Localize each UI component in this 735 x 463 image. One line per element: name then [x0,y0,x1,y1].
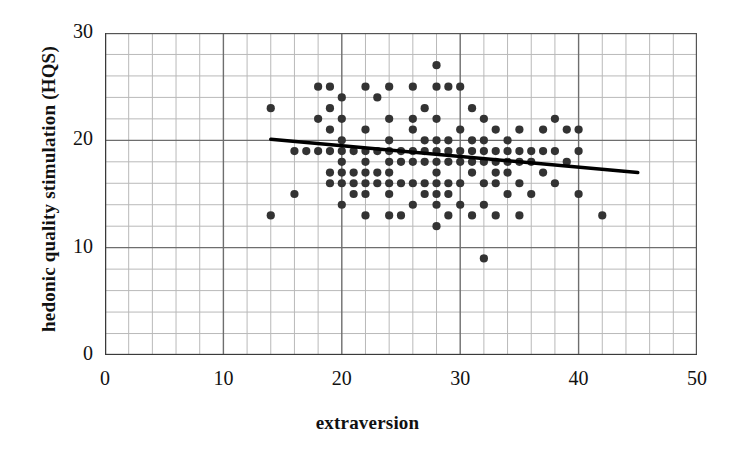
y-axis-title: hedonic quality stimulation (HQS) [38,24,60,354]
data-point [432,61,440,69]
data-point [421,158,429,166]
y-tick-label: 30 [49,20,93,43]
data-point [444,83,452,91]
data-point [338,168,346,176]
data-point [575,190,583,198]
data-point [373,93,381,101]
trendline [271,139,638,172]
data-point [432,179,440,187]
scatter-plot-svg [105,33,697,355]
data-point [338,136,346,144]
data-point [290,190,298,198]
data-point [397,211,405,219]
data-point [551,147,559,155]
data-point [432,168,440,176]
data-point [361,158,369,166]
data-point [551,115,559,123]
data-point [551,179,559,187]
data-point [468,211,476,219]
data-point [421,104,429,112]
data-point [480,201,488,209]
data-point [385,158,393,166]
minor-gridlines [105,33,697,355]
data-point [444,211,452,219]
data-point [361,211,369,219]
data-point [468,168,476,176]
data-point [397,179,405,187]
data-point [539,126,547,134]
data-point [492,168,500,176]
data-point [314,147,322,155]
data-point [432,158,440,166]
data-point [515,126,523,134]
data-point [456,179,464,187]
x-tick-label: 20 [320,367,364,390]
data-point [480,136,488,144]
data-point [503,168,511,176]
data-point [326,126,334,134]
data-point [267,104,275,112]
data-point [468,104,476,112]
x-tick-label: 50 [675,367,719,390]
data-point [456,83,464,91]
data-point [515,179,523,187]
data-point [361,83,369,91]
y-tick-label: 10 [49,235,93,258]
major-gridlines [105,33,697,355]
data-point [421,136,429,144]
data-point [468,136,476,144]
data-point [527,147,535,155]
data-point [444,136,452,144]
data-point [444,179,452,187]
data-point [373,179,381,187]
data-point [563,126,571,134]
y-tick-label: 20 [49,127,93,150]
data-point [409,158,417,166]
data-point [385,168,393,176]
trendline-segment [271,139,638,172]
plot-area [105,33,697,355]
data-point [598,211,606,219]
data-point [385,190,393,198]
data-point [480,147,488,155]
data-point [492,211,500,219]
data-point [361,126,369,134]
data-point [432,190,440,198]
data-point [432,222,440,230]
data-point [515,147,523,155]
data-point [409,83,417,91]
data-point [326,168,334,176]
data-point [456,201,464,209]
data-point [409,115,417,123]
data-point [361,179,369,187]
data-point [456,126,464,134]
data-point [539,147,547,155]
data-point [361,168,369,176]
data-point [373,168,381,176]
data-point [432,115,440,123]
chart-figure: hedonic quality stimulation (HQS) extrav… [0,0,735,463]
data-point [503,136,511,144]
data-point [432,136,440,144]
data-point [539,168,547,176]
data-point [338,115,346,123]
data-point [409,126,417,134]
data-point [468,147,476,155]
data-point [385,115,393,123]
data-point [456,147,464,155]
data-point [314,115,322,123]
x-tick-label: 0 [83,367,127,390]
x-tick-label: 40 [557,367,601,390]
data-point [527,190,535,198]
data-point [350,179,358,187]
data-point [480,254,488,262]
data-point [385,83,393,91]
data-point [503,190,511,198]
data-point [409,201,417,209]
data-point [397,158,405,166]
x-tick-label: 10 [201,367,245,390]
data-point [302,147,310,155]
data-point [409,179,417,187]
data-point [326,179,334,187]
data-point [338,201,346,209]
